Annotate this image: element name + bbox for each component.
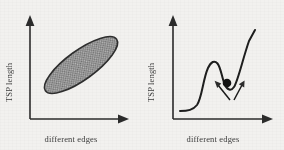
local-minimum-landscape-svg: [142, 0, 284, 150]
x-axis-right: [173, 115, 273, 124]
figure-root: TSP length different edges: [0, 0, 284, 150]
x-axis-label-right: different edges: [142, 134, 284, 144]
y-axis-label-left: TSP length: [4, 63, 14, 102]
panel-local-minimum-landscape: TSP length different edges: [142, 0, 284, 150]
x-axis-label-left: different edges: [0, 134, 142, 144]
correlation-ellipse-svg: [0, 0, 142, 150]
x-axis-left: [30, 115, 129, 124]
y-axis-right: [169, 15, 178, 119]
energy-landscape-curve: [180, 30, 255, 111]
panel-correlation-ellipse: TSP length different edges: [0, 0, 142, 150]
current-solution-dot: [223, 79, 232, 88]
y-axis-label-right: TSP length: [146, 63, 156, 102]
y-axis-left: [26, 15, 35, 119]
correlation-ellipse-shape: [37, 27, 125, 102]
